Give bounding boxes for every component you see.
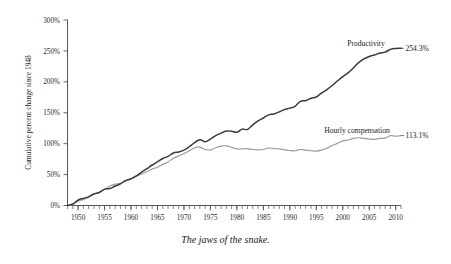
x-tick-label: 2000 — [336, 214, 351, 222]
label-productivity: Productivity — [347, 39, 385, 48]
x-tick-label: 1990 — [283, 214, 298, 222]
chart-figure: 0%50%100%150%200%250%300% Cumulative per… — [0, 0, 451, 264]
x-tick-label: 1965 — [150, 214, 165, 222]
x-tick-label: 1960 — [124, 214, 139, 222]
x-tick-label: 1975 — [203, 214, 218, 222]
y-tick-label: 0% — [50, 202, 60, 210]
x-tick-label: 1955 — [97, 214, 112, 222]
value-label-productivity: 254.3% — [406, 44, 430, 53]
x-tick-label: 2010 — [389, 214, 404, 222]
y-tick-label: 250% — [43, 48, 60, 56]
y-tick-label: 200% — [43, 78, 60, 86]
y-tick-label: 150% — [43, 109, 60, 117]
y-tick-label: 50% — [47, 171, 60, 179]
jaws-of-the-snake-chart: 0%50%100%150%200%250%300% Cumulative per… — [0, 0, 451, 264]
y-tick-label: 300% — [43, 17, 60, 25]
x-tick-label: 1950 — [71, 214, 86, 222]
x-tick-label: 1970 — [177, 214, 192, 222]
x-tick-label: 1995 — [309, 214, 324, 222]
label-hourly-compensation: Hourly compensation — [324, 126, 390, 135]
x-tick-label: 1980 — [230, 214, 245, 222]
x-tick-label: 1985 — [256, 214, 271, 222]
figure-caption: The jaws of the snake. — [181, 234, 270, 245]
y-axis-title: Cumulative percent change since 1948 — [24, 55, 33, 170]
x-tick-label: 2005 — [362, 214, 377, 222]
y-tick-label: 100% — [43, 140, 60, 148]
value-label-hourly-compensation: 113.1% — [406, 131, 430, 140]
